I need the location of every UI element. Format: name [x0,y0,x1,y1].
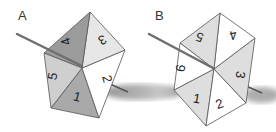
panel-a-label: A [18,8,27,23]
shadow-right [244,87,276,103]
panel-b-label: B [155,8,164,23]
panel-a: A 1 2 3 4 5 [17,8,176,118]
spinner-diagram: A 1 2 3 4 5 B 1 2 3 4 [0,0,276,132]
panel-b: B 1 2 3 4 5 6 [138,8,276,126]
